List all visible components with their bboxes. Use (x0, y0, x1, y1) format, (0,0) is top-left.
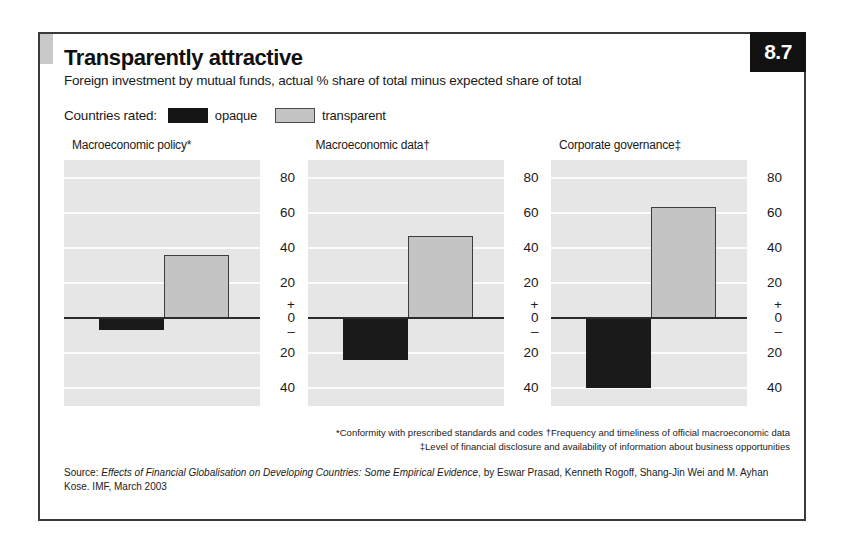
y-axis: 8060402002040+– (504, 160, 545, 406)
gridline (308, 247, 504, 249)
y-axis: 8060402002040+– (260, 160, 301, 406)
gridline (308, 387, 504, 389)
bar-transparent (408, 236, 473, 319)
gridline (308, 177, 504, 179)
gridline (308, 212, 504, 214)
axis-tick-label: 20 (280, 347, 295, 361)
gridline (551, 177, 747, 179)
chart-legend: Countries rated: opaque transparent (64, 108, 404, 123)
chart-panel-macroeconomic-data: Macroeconomic data† 8060402002040+– (308, 138, 545, 406)
bar-opaque (343, 318, 408, 360)
gridline (551, 247, 747, 249)
axis-tick-label: 60 (767, 206, 782, 220)
plot-area (64, 160, 260, 406)
axis-minus-sign: – (774, 325, 782, 339)
axis-tick-label: 0 (774, 311, 782, 325)
axis-tick-label: 20 (280, 276, 295, 290)
axis-plus-sign: + (287, 298, 295, 312)
axis-tick-label: 40 (280, 241, 295, 255)
source-prefix: Source: (64, 467, 101, 478)
gridline (64, 387, 260, 389)
legend-swatch-transparent-icon (275, 108, 315, 123)
axis-tick-label: 0 (531, 311, 539, 325)
zero-line (551, 317, 747, 319)
plot-area (308, 160, 504, 406)
axis-tick-label: 0 (287, 311, 295, 325)
axis-tick-label: 60 (280, 206, 295, 220)
legend-entry-opaque: opaque (168, 108, 257, 123)
axis-tick-label: 80 (523, 171, 538, 185)
axis-tick-label: 60 (523, 206, 538, 220)
figure-frame: 8.7 Transparently attractive Foreign inv… (38, 32, 806, 521)
gridline (64, 247, 260, 249)
corner-accent-block (40, 34, 53, 64)
y-axis: 8060402002040+– (747, 160, 788, 406)
legend-entry-transparent: transparent (275, 108, 386, 123)
legend-text-transparent: transparent (322, 108, 386, 123)
gridline (308, 282, 504, 284)
axis-tick-label: 20 (523, 276, 538, 290)
axis-tick-label: 40 (767, 382, 782, 396)
axis-tick-label: 40 (523, 241, 538, 255)
axis-tick-label: 80 (767, 171, 782, 185)
axis-tick-label: 20 (523, 347, 538, 361)
bar-opaque (99, 318, 164, 330)
zero-line (64, 317, 260, 319)
axis-tick-label: 40 (523, 382, 538, 396)
axis-tick-label: 80 (280, 171, 295, 185)
footnote-line-2: ‡Level of financial disclosure and avail… (64, 440, 790, 454)
figure-number-badge: 8.7 (750, 32, 806, 72)
source-note: Source: Effects of Financial Globalisati… (64, 466, 784, 493)
bar-transparent (651, 207, 716, 318)
source-title: Effects of Financial Globalisation on De… (101, 467, 478, 478)
figure-header: Transparently attractive Foreign investm… (64, 46, 734, 89)
gridline (64, 282, 260, 284)
bar-opaque (586, 318, 651, 388)
panel-title: Macroeconomic policy* (72, 138, 191, 152)
gridline (551, 282, 747, 284)
chart-panel-macroeconomic-policy: Macroeconomic policy* 8060402002040+– (64, 138, 301, 406)
gridline (551, 212, 747, 214)
axis-plus-sign: + (774, 298, 782, 312)
chart-panel-corporate-governance: Corporate governance‡ 8060402002040+– (551, 138, 788, 406)
panel-title: Corporate governance‡ (559, 138, 681, 152)
axis-tick-label: 40 (767, 241, 782, 255)
gridline (64, 177, 260, 179)
axis-minus-sign: – (287, 325, 295, 339)
legend-text-opaque: opaque (215, 108, 257, 123)
legend-swatch-opaque-icon (168, 108, 208, 123)
chart-subtitle: Foreign investment by mutual funds, actu… (64, 73, 734, 89)
zero-line (308, 317, 504, 319)
legend-label: Countries rated: (64, 108, 157, 123)
axis-tick-label: 20 (767, 276, 782, 290)
chart-panels: Macroeconomic policy* 8060402002040+– Ma… (64, 138, 788, 406)
footnotes: *Conformity with prescribed standards an… (64, 426, 790, 454)
axis-plus-sign: + (531, 298, 539, 312)
axis-tick-label: 20 (767, 347, 782, 361)
gridline (64, 352, 260, 354)
gridline (64, 212, 260, 214)
plot-area (551, 160, 747, 406)
footnote-line-1: *Conformity with prescribed standards an… (64, 426, 790, 440)
panel-title: Macroeconomic data† (316, 138, 430, 152)
bar-transparent (164, 255, 229, 318)
axis-minus-sign: – (531, 325, 539, 339)
page-title: Transparently attractive (64, 46, 734, 71)
axis-tick-label: 40 (280, 382, 295, 396)
